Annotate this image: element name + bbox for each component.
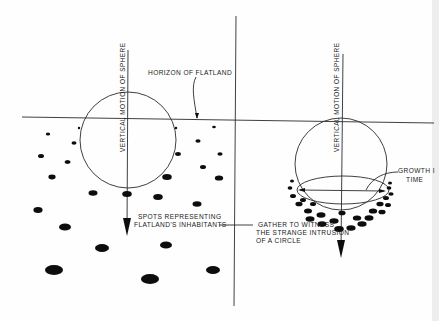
gather-label-line1: GATHER TO WITNESS xyxy=(258,221,335,228)
left-sphere-tick xyxy=(175,127,177,129)
horizon-pointer xyxy=(193,77,197,118)
right-vertical-motion-arrow xyxy=(341,54,343,252)
flatland-sphere-diagram: VERTICAL MOTION OF SPHERE HORIZON OF FLA… xyxy=(0,0,439,321)
growth-pointer xyxy=(366,172,398,190)
left-panel: VERTICAL MOTION OF SPHERE HORIZON OF FLA… xyxy=(33,43,253,284)
horizon-label: HORIZON OF FLATLAND xyxy=(148,69,232,76)
diagram-canvas: VERTICAL MOTION OF SPHERE HORIZON OF FLA… xyxy=(0,0,439,321)
right-arrowhead-icon xyxy=(337,240,345,258)
left-vertical-label: VERTICAL MOTION OF SPHERE xyxy=(119,43,126,152)
inhabitant-spots xyxy=(33,126,223,284)
spots-label-line1: SPOTS REPRESENTING xyxy=(138,213,221,220)
right-sphere-circle xyxy=(295,118,387,210)
page-edge-shadow xyxy=(432,0,439,321)
left-vertical-motion-arrow xyxy=(127,50,128,232)
gather-label-line3: OF A CIRCLE xyxy=(256,237,301,244)
right-panel: GROWTH I TIME VERTICAL MOTION OF SPHERE xyxy=(256,43,435,258)
growth-arrowhead-left-icon xyxy=(298,188,305,192)
right-vertical-label: VERTICAL MOTION OF SPHERE xyxy=(333,43,340,152)
horizon-pointer-arrow-icon xyxy=(195,113,199,119)
left-sphere-tick xyxy=(78,127,80,129)
left-arrowhead-icon xyxy=(123,218,131,236)
gather-label-line2: THE STRANGE INTRUSION xyxy=(256,229,349,236)
growth-label-line2: TIME xyxy=(406,176,424,183)
growth-arrowhead-right-icon xyxy=(379,189,386,193)
spots-label-line2: FLATLAND'S INHABITANTS xyxy=(134,221,227,228)
growth-label-line1: GROWTH I xyxy=(398,167,435,174)
panel-divider-line xyxy=(234,16,236,306)
